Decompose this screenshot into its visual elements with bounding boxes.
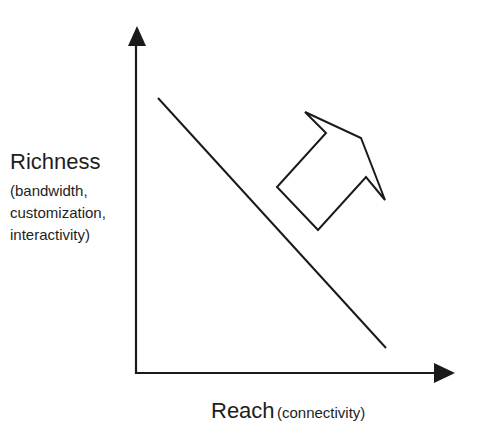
tradeoff-line	[158, 98, 386, 348]
x-axis-subtitle: (connectivity)	[277, 404, 365, 421]
y-axis-subtitle-line-2: customization,	[10, 202, 106, 224]
y-axis-title: Richness	[10, 149, 100, 175]
x-axis-title: Reach	[211, 398, 275, 424]
x-axis-arrowhead-icon	[434, 363, 455, 383]
y-axis-arrowhead-icon	[128, 26, 146, 46]
y-axis-subtitle-line-3: interactivity)	[10, 224, 90, 246]
up-right-arrow-icon	[277, 112, 385, 230]
y-axis-subtitle-line-1: (bandwidth,	[10, 180, 88, 202]
